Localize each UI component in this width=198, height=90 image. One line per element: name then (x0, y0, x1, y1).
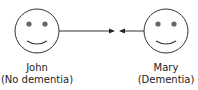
john-name: John (0, 62, 77, 74)
john-status: (No dementia) (0, 74, 77, 86)
arrow-left-icon (119, 29, 144, 34)
john-face-icon (15, 9, 59, 53)
mary-label: Mary (Dementia) (126, 62, 198, 86)
mary-status: (Dementia) (126, 74, 198, 86)
mary-name: Mary (126, 62, 198, 74)
mary-face-icon (144, 9, 188, 53)
john-label: John (No dementia) (0, 62, 77, 86)
arrow-right-icon (59, 29, 115, 34)
